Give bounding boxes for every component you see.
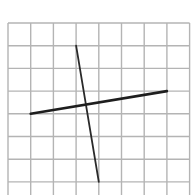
grid-diagram [0, 0, 194, 195]
grid-lines [8, 23, 190, 195]
